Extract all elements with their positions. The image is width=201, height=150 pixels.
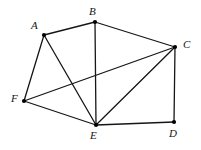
graph-vertex-E (94, 123, 98, 127)
graph-vertex-C (173, 45, 177, 49)
vertex-label-F: F (11, 93, 18, 104)
graph-vertex-F (22, 99, 26, 103)
graph-edge-AB (44, 22, 95, 35)
graph-edge-BC (95, 22, 175, 47)
graph-edge-CD (174, 47, 175, 122)
graph-diagram: ABCDEF (0, 0, 201, 150)
vertex-label-C: C (183, 39, 190, 50)
graph-edge-EF (24, 101, 96, 125)
graph-edge-AF (24, 35, 44, 101)
graph-edge-CE (96, 47, 175, 125)
edge-layer (24, 22, 175, 125)
graph-vertex-D (172, 120, 176, 124)
graph-edge-BE (95, 22, 96, 125)
graph-edge-AE (44, 35, 96, 125)
vertex-label-E: E (90, 130, 97, 141)
vertex-label-A: A (31, 20, 38, 31)
graph-edge-CF (24, 47, 175, 101)
graph-edge-DE (96, 122, 174, 125)
vertex-label-D: D (169, 128, 177, 139)
vertex-label-B: B (89, 6, 96, 17)
graph-vertex-A (42, 33, 46, 37)
graph-vertex-B (93, 20, 97, 24)
